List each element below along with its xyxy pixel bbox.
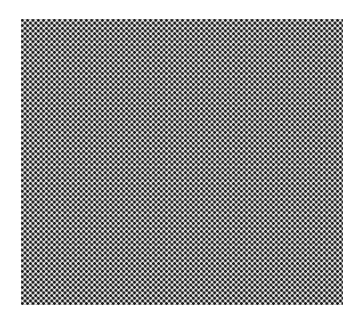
image-canvas — [0, 0, 363, 321]
mesh-texture-swatch — [21, 19, 343, 305]
